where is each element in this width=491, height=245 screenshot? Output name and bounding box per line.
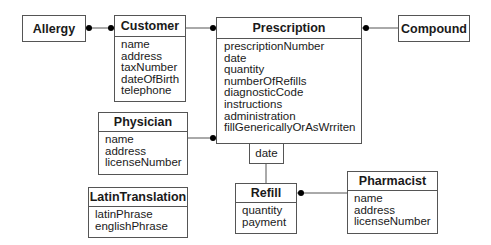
class-refill[interactable]: Refill quantity payment: [235, 183, 297, 234]
attribute: instructions: [224, 99, 361, 111]
attribute: licenseNumber: [354, 216, 437, 228]
many-dot-prescription-compound: [363, 25, 369, 31]
class-physician[interactable]: Physician name address licenseNumber: [98, 112, 188, 175]
class-name: Customer: [115, 16, 185, 37]
class-latin-translation[interactable]: LatinTranslation latinPhrase englishPhra…: [88, 187, 188, 238]
attribute: name: [354, 193, 437, 205]
attribute-list: name address licenseNumber: [99, 132, 187, 169]
class-prescription[interactable]: Prescription prescriptionNumber date qua…: [216, 17, 362, 144]
attribute: name: [121, 39, 185, 51]
many-dot-refill-pharmacist: [298, 190, 304, 196]
class-name: Compound: [399, 16, 469, 41]
attribute: fillGenericallyOrAsWrriten: [224, 122, 361, 134]
attribute: latinPhrase: [95, 209, 187, 221]
attribute-list: prescriptionNumber date quantity numberO…: [217, 39, 361, 134]
attribute-list: name address taxNumber dateOfBirth telep…: [115, 37, 185, 97]
class-name: Pharmacist: [348, 172, 437, 191]
class-name: Physician: [99, 113, 187, 132]
class-name: Allergy: [23, 16, 85, 41]
attribute: prescriptionNumber: [224, 41, 361, 53]
class-name: LatinTranslation: [89, 188, 187, 207]
class-allergy[interactable]: Allergy: [22, 15, 86, 42]
attribute-list: latinPhrase englishPhrase: [89, 207, 187, 232]
qualifier-date: date: [249, 143, 284, 164]
attribute: payment: [242, 217, 296, 229]
attribute: telephone: [121, 85, 185, 97]
class-name: Refill: [236, 184, 296, 203]
class-compound[interactable]: Compound: [398, 15, 470, 42]
attribute-list: quantity payment: [236, 203, 296, 228]
class-customer[interactable]: Customer name address taxNumber dateOfBi…: [114, 15, 186, 102]
attribute: name: [105, 134, 187, 146]
class-name: Prescription: [217, 18, 361, 39]
class-pharmacist[interactable]: Pharmacist name address licenseNumber: [347, 171, 438, 234]
attribute-list: name address licenseNumber: [348, 191, 437, 228]
attribute: quantity: [242, 205, 296, 217]
attribute: licenseNumber: [105, 157, 187, 169]
many-dot-allergy-side: [86, 25, 92, 31]
attribute: englishPhrase: [95, 221, 187, 233]
